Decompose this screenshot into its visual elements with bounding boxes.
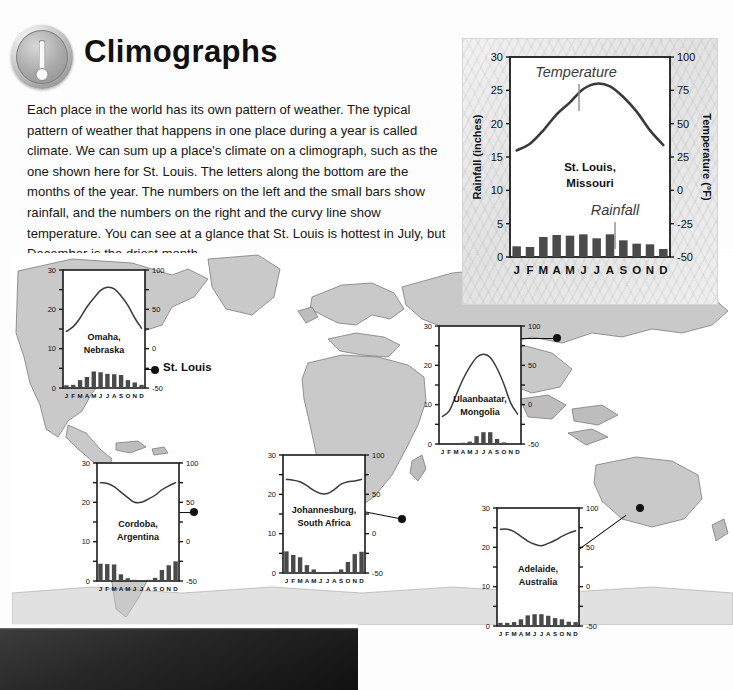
month-label: J: [65, 392, 69, 399]
rainfall-bar: [560, 619, 564, 626]
rainfall-bar: [98, 372, 102, 388]
place-name-line2: Missouri: [566, 177, 613, 189]
left-tick-label: 0: [52, 384, 56, 393]
adelaide-climograph: 0102030 -50050100 JFMAMJJASOND Adelaide,…: [462, 500, 602, 652]
rainfall-bar: [519, 619, 523, 626]
rainfall-bar: [539, 614, 543, 626]
month-label: J: [99, 585, 103, 592]
right-tick-label: 100: [677, 51, 695, 63]
climographs-page: Climographs Each place in the world has …: [0, 0, 733, 690]
left-axis-ticks: 051015202530: [491, 51, 510, 263]
right-tick-label: -50: [372, 569, 383, 578]
month-label: S: [495, 448, 499, 455]
rainfall-bar: [71, 385, 75, 388]
left-tick-label: 20: [82, 498, 90, 507]
rainfall-bar: [291, 555, 295, 573]
month-label: D: [573, 630, 578, 637]
right-tick-label: 0: [677, 184, 683, 196]
omaha-climograph: 0102030 -50050100 JFMAMJJASOND Omaha, Ne…: [28, 262, 168, 410]
map-dot-ulaanbaatar: [553, 334, 561, 342]
rainfall-bar: [359, 552, 363, 573]
month-label: M: [454, 448, 459, 455]
month-label: A: [519, 630, 524, 637]
rainfall-bar: [339, 569, 343, 573]
rainfall-bar: [173, 561, 177, 581]
place-name-line1: Omaha,: [87, 332, 120, 342]
left-tick-label: 15: [491, 151, 503, 163]
right-tick-label: 0: [372, 529, 376, 538]
month-label: A: [332, 577, 337, 584]
left-tick-label: 30: [268, 451, 276, 460]
right-tick-label: -50: [528, 440, 539, 449]
left-axis-ticks: 0102030: [268, 451, 283, 578]
rainfall-bar: [632, 244, 641, 257]
omaha-chart: 0102030 -50050100 JFMAMJJASOND Omaha, Ne…: [28, 262, 168, 410]
month-label: F: [291, 577, 295, 584]
month-label: S: [553, 630, 557, 637]
left-axis-ticks: 0102030: [82, 459, 97, 586]
month-label: J: [499, 630, 503, 637]
rainfall-bar: [461, 443, 465, 444]
rainfall-bar: [546, 616, 550, 626]
right-tick-label: 100: [586, 504, 599, 513]
month-label: N: [509, 448, 514, 455]
thermometer-bulb-icon: [36, 68, 49, 81]
month-label: J: [533, 630, 537, 637]
temperature-annotation: Temperature: [535, 64, 617, 80]
rainfall-bar: [318, 572, 322, 573]
month-label: J: [106, 392, 110, 399]
place-name-line1: Adelaide,: [518, 564, 558, 574]
rainfall-bar: [160, 570, 164, 581]
rainfall-bar: [566, 236, 575, 257]
right-tick-label: 50: [528, 361, 536, 370]
rainfall-bar: [153, 578, 157, 581]
left-tick-label: 10: [491, 184, 503, 196]
month-label: D: [359, 577, 364, 584]
rainfall-bar: [64, 385, 68, 388]
rainfall-bar: [119, 375, 123, 388]
rainfall-bar: [526, 247, 535, 257]
intro-paragraph: Each place in the world has its own patt…: [27, 100, 447, 265]
rainfall-bar: [474, 436, 478, 444]
rainfall-bar: [284, 551, 288, 573]
page-edge-shadow: [0, 628, 358, 690]
rainfall-bar: [515, 444, 519, 445]
st-louis-climograph-panel: 051015202530 -50-250255075100 JFMAMJJASO…: [462, 38, 718, 305]
left-tick-label: 20: [482, 543, 490, 552]
right-axis-ticks: -50050100: [579, 504, 599, 631]
left-tick-label: 0: [497, 251, 503, 263]
month-labels: JFMAMJJASOND: [441, 448, 521, 455]
rainfall-bar: [139, 580, 143, 581]
rainfall-bar: [573, 622, 577, 626]
month-label: M: [467, 448, 472, 455]
right-tick-label: -50: [586, 622, 597, 631]
left-tick-label: 0: [486, 622, 490, 631]
month-label: J: [580, 264, 586, 276]
month-label: A: [119, 585, 124, 592]
rainfall-bar: [78, 380, 82, 388]
left-axis-ticks: 0102030: [482, 504, 497, 631]
month-label: A: [305, 577, 310, 584]
month-label: N: [567, 630, 572, 637]
adelaide-chart: 0102030 -50050100 JFMAMJJASOND Adelaide,…: [462, 500, 602, 652]
month-label: J: [133, 585, 137, 592]
ulaanbaatar-climograph: 0102030 -50050100 JFMAMJJASOND Ulaanbaat…: [404, 318, 544, 466]
left-tick-label: 10: [482, 582, 490, 591]
rainfall-bar: [579, 234, 588, 257]
month-label: S: [119, 392, 123, 399]
month-label: J: [593, 264, 599, 276]
rainfall-bar: [105, 374, 109, 388]
right-axis-ticks: -50050100: [521, 322, 541, 449]
left-tick-label: 20: [48, 305, 56, 314]
month-label: S: [619, 264, 627, 276]
left-tick-label: 30: [424, 322, 432, 331]
month-label: S: [153, 585, 157, 592]
month-label: A: [461, 448, 466, 455]
left-tick-label: 30: [48, 266, 56, 275]
left-tick-label: 0: [86, 577, 90, 586]
month-label: J: [475, 448, 479, 455]
place-name-line2: Nebraska: [84, 345, 126, 355]
rainfall-bar: [526, 615, 530, 626]
right-tick-label: 50: [152, 305, 160, 314]
month-label: A: [488, 448, 493, 455]
